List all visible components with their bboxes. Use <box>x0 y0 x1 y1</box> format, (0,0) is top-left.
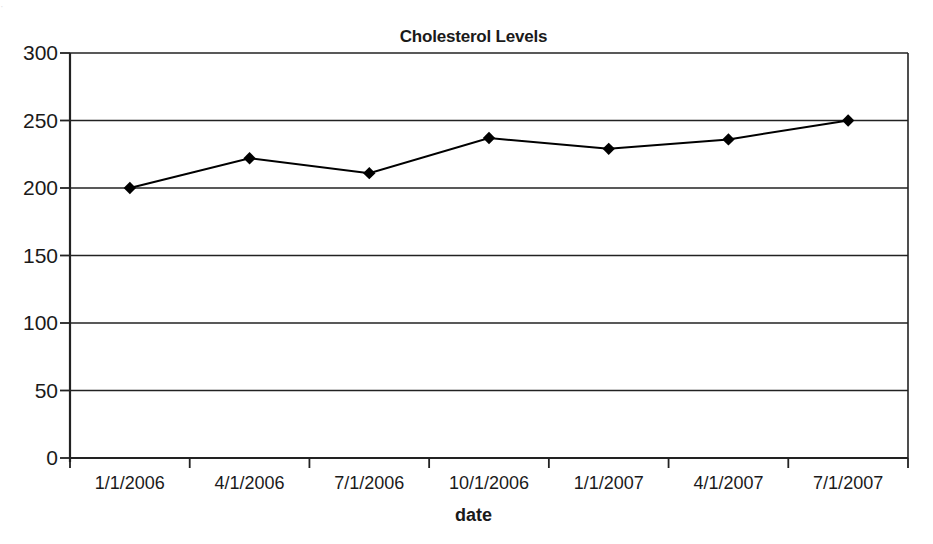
chart-container: · Cholesterol Levels 050100150200250300 … <box>0 0 933 544</box>
x-axis-tick-labels: 1/1/20064/1/20067/1/200610/1/20061/1/200… <box>0 0 933 544</box>
x-axis-tick-label: 7/1/2007 <box>813 474 883 492</box>
x-axis-tick-label: 1/1/2007 <box>574 474 644 492</box>
x-axis-tick-label: 4/1/2007 <box>693 474 763 492</box>
x-axis-tick-label: 1/1/2006 <box>95 474 165 492</box>
x-axis-title: date <box>0 505 933 526</box>
x-axis-tick-label: 7/1/2006 <box>334 474 404 492</box>
x-axis-tick-label: 4/1/2006 <box>215 474 285 492</box>
x-axis-tick-label: 10/1/2006 <box>449 474 529 492</box>
